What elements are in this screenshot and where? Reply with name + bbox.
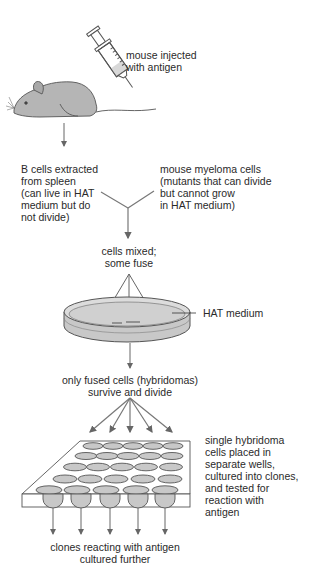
label-line: clones reacting with antigen xyxy=(40,541,190,553)
label-fused-cells: only fused cells (hybridomas) survive an… xyxy=(50,374,210,398)
label-line: and tested for xyxy=(205,482,298,494)
label-line: cultured further xyxy=(40,553,190,565)
label-line: mouse myeloma cells xyxy=(160,163,271,175)
label-line: some fuse xyxy=(88,257,170,269)
label-mouse-injected: mouse injected with antigen xyxy=(126,49,197,73)
label-line: medium but do xyxy=(21,199,98,211)
label-line: mouse injected xyxy=(126,49,197,61)
label-cells-mixed: cells mixed; some fuse xyxy=(88,245,170,269)
label-hat-medium: HAT medium xyxy=(203,307,263,319)
label-line: cells mixed; xyxy=(88,245,170,257)
label-line: from spleen xyxy=(21,175,98,187)
label-line: cultured into clones, xyxy=(205,470,298,482)
mouse-icon xyxy=(6,81,156,117)
label-line: cells placed in xyxy=(205,446,298,458)
label-line: only fused cells (hybridomas) xyxy=(50,374,210,386)
label-line: single hybridoma xyxy=(205,434,298,446)
label-line: with antigen xyxy=(126,61,197,73)
petri-dish-icon xyxy=(64,297,190,342)
label-line: separate wells, xyxy=(205,458,298,470)
label-line: not divide) xyxy=(21,211,98,223)
label-line: but cannot grow xyxy=(160,187,271,199)
label-line: B cells extracted xyxy=(21,163,98,175)
label-line: reaction with xyxy=(205,494,298,506)
label-line: in HAT medium) xyxy=(160,199,271,211)
label-line: antigen xyxy=(205,506,298,518)
label-line: (can live in HAT xyxy=(21,187,98,199)
well-plate-icon xyxy=(22,441,190,508)
label-clones-cultured: clones reacting with antigen cultured fu… xyxy=(40,541,190,565)
label-line: (mutants that can divide xyxy=(160,175,271,187)
merge-lines xyxy=(101,191,154,238)
label-line: survive and divide xyxy=(50,386,210,398)
label-myeloma-cells: mouse myeloma cells (mutants that can di… xyxy=(160,163,271,211)
label-b-cells: B cells extracted from spleen (can live … xyxy=(21,163,98,223)
label-hybridoma-wells: single hybridoma cells placed in separat… xyxy=(205,434,298,518)
